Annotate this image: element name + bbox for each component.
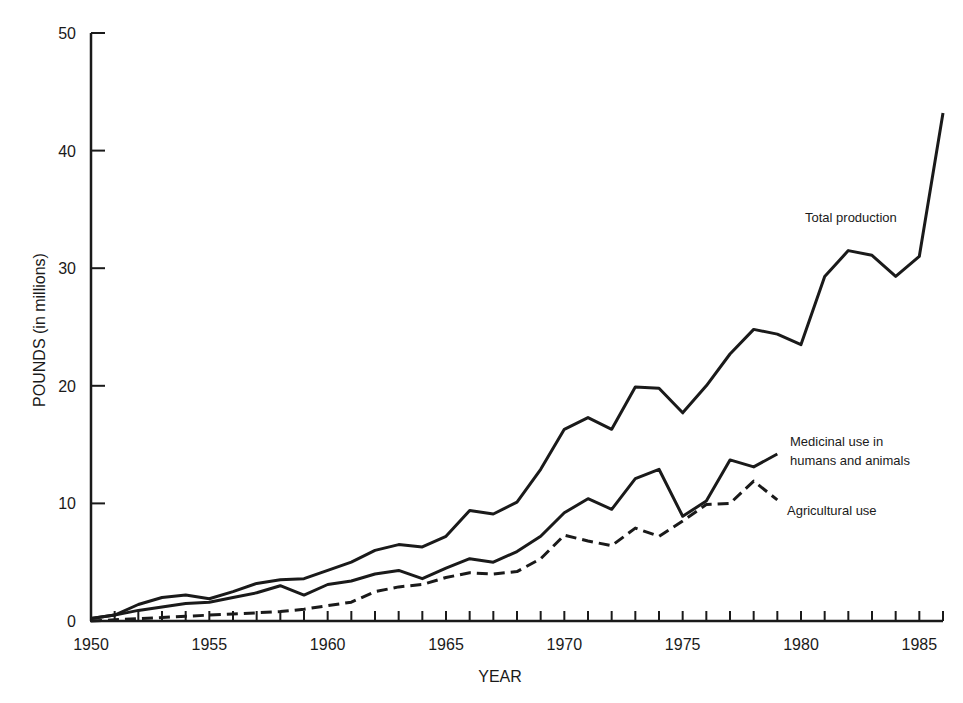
y-tick-label: 30 [58, 260, 76, 277]
medicinal-use-label-line1: Medicinal use in [790, 434, 883, 449]
x-tick-label: 1955 [192, 636, 228, 653]
line-chart: 01020304050 1950195519601965197019751980… [0, 0, 963, 703]
total-production-line [91, 113, 943, 619]
x-axis-title: YEAR [478, 668, 522, 685]
medicinal-use-label-line2: humans and animals [790, 453, 910, 468]
series-lines [91, 113, 943, 621]
y-tick-label: 0 [67, 613, 76, 630]
x-tick-label: 1960 [310, 636, 346, 653]
x-tick-label: 1985 [902, 636, 938, 653]
x-tick-label: 1965 [428, 636, 464, 653]
y-tick-label: 10 [58, 495, 76, 512]
y-tick-label: 50 [58, 25, 76, 42]
x-tick-labels: 19501955196019651970197519801985 [73, 636, 937, 653]
y-tick-labels: 01020304050 [58, 25, 76, 630]
x-tick-label: 1950 [73, 636, 109, 653]
x-tick-label: 1980 [783, 636, 819, 653]
y-tick-label: 20 [58, 378, 76, 395]
y-ticks [91, 33, 105, 503]
y-tick-label: 40 [58, 143, 76, 160]
x-tick-label: 1970 [547, 636, 583, 653]
medicinal-use-line [91, 454, 777, 619]
x-tick-label: 1975 [665, 636, 701, 653]
y-axis-title: POUNDS (in millions) [31, 253, 48, 407]
x-ticks [115, 611, 943, 621]
total-production-label: Total production [805, 210, 897, 225]
agricultural-use-label: Agricultural use [787, 503, 877, 518]
